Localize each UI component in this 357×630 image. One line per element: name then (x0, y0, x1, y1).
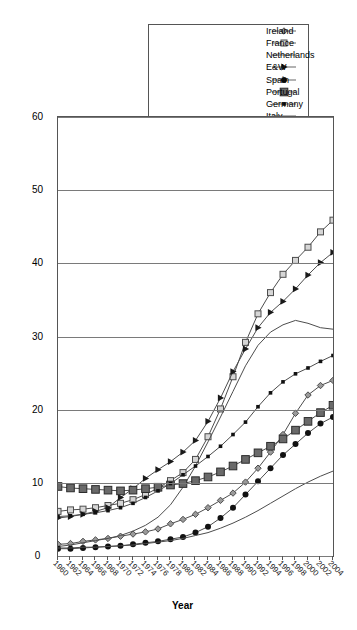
y-axis-tick-label: 10 (29, 476, 47, 487)
gridline (58, 190, 333, 191)
gridline (58, 483, 333, 484)
plot-area (57, 116, 334, 557)
y-axis-tick-label: 0 (29, 550, 47, 561)
legend-label: Ireland (266, 26, 294, 36)
y-axis-tick-label: 60 (29, 111, 47, 122)
gridline (58, 410, 333, 411)
y-axis-tick-label: 30 (29, 330, 47, 341)
legend-item[interactable]: Germany (149, 98, 308, 110)
legend-label: Spain (266, 75, 289, 85)
x-axis-labels: 1960196219641966196819701972197419761978… (57, 557, 334, 627)
gridline (58, 117, 333, 118)
legend-label: Netherlands (266, 50, 315, 60)
y-axis-tick-label: 50 (29, 184, 47, 195)
gridline (58, 337, 333, 338)
legend-label: France (266, 38, 294, 48)
gridline (58, 263, 333, 264)
y-axis-tick-label: 20 (29, 403, 47, 414)
chart-legend: IrelandFranceNetherlandsE&WSpainPortugal… (148, 24, 309, 123)
legend-label: Portugal (266, 87, 300, 97)
legend-item[interactable]: France (149, 37, 308, 49)
legend-label: E&W (266, 62, 287, 72)
y-axis-labels: 6050403020100 (11, 116, 57, 557)
legend-label: Germany (266, 99, 303, 109)
chart-stage: IrelandFranceNetherlandsE&WSpainPortugal… (0, 0, 357, 630)
y-axis-tick-label: 40 (29, 257, 47, 268)
x-axis-title: Year (172, 600, 193, 611)
